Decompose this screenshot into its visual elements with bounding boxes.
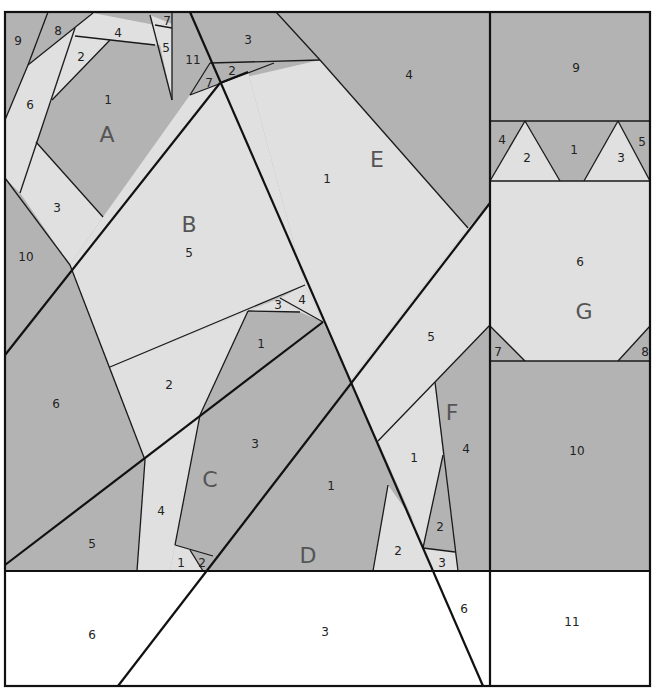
label-g10: 10 bbox=[569, 444, 584, 458]
label-b3: 3 bbox=[274, 298, 282, 312]
label-f2: 2 bbox=[436, 520, 444, 534]
label-a2: 2 bbox=[77, 50, 85, 64]
label-c1: 1 bbox=[177, 556, 185, 570]
label-a3: 3 bbox=[53, 201, 61, 215]
label-f2b: 2 bbox=[394, 544, 402, 558]
section-label-e: E bbox=[370, 147, 384, 172]
section-label-g: G bbox=[575, 299, 592, 324]
pattern-svg: 9 8 4 7 5 2 6 1 3 10 11 3 4 2 7 1 5 5 6 … bbox=[0, 0, 655, 693]
label-a9: 9 bbox=[14, 34, 22, 48]
label-a11: 11 bbox=[185, 53, 200, 67]
section-label-f: F bbox=[446, 400, 459, 425]
label-bottom-6-left: 6 bbox=[88, 628, 96, 642]
label-a8: 8 bbox=[54, 24, 62, 38]
label-f3: 3 bbox=[438, 556, 446, 570]
label-b2: 2 bbox=[165, 378, 173, 392]
label-a5: 5 bbox=[162, 41, 170, 55]
label-c2: 2 bbox=[198, 556, 206, 570]
section-label-a: A bbox=[99, 122, 114, 147]
label-b1: 1 bbox=[257, 337, 265, 351]
label-a7: 7 bbox=[163, 14, 171, 28]
label-a4: 4 bbox=[114, 26, 122, 40]
quilt-pattern-diagram: 9 8 4 7 5 2 6 1 3 10 11 3 4 2 7 1 5 5 6 … bbox=[0, 0, 655, 693]
label-e4: 4 bbox=[405, 68, 413, 82]
label-e5: 5 bbox=[427, 330, 435, 344]
piece-g11 bbox=[490, 571, 650, 686]
label-b5: 5 bbox=[185, 246, 193, 260]
section-label-b: B bbox=[181, 212, 196, 237]
label-g11: 11 bbox=[564, 615, 579, 629]
label-g2: 2 bbox=[523, 151, 531, 165]
section-label-c: C bbox=[202, 467, 217, 492]
label-g7: 7 bbox=[494, 345, 502, 359]
label-g3: 3 bbox=[617, 151, 625, 165]
label-g6: 6 bbox=[576, 255, 584, 269]
label-e3: 3 bbox=[244, 33, 252, 47]
label-g5: 5 bbox=[638, 135, 646, 149]
label-c3: 3 bbox=[251, 437, 259, 451]
label-e7: 7 bbox=[205, 76, 213, 90]
label-a1: 1 bbox=[104, 93, 112, 107]
section-label-d: D bbox=[300, 543, 317, 568]
label-g8: 8 bbox=[641, 345, 649, 359]
label-g4: 4 bbox=[498, 133, 506, 147]
label-e2: 2 bbox=[228, 64, 236, 78]
label-f4: 4 bbox=[462, 442, 470, 456]
label-c4: 4 bbox=[157, 504, 165, 518]
label-f1: 1 bbox=[410, 451, 418, 465]
label-bottom-3: 3 bbox=[321, 625, 329, 639]
piece-g6 bbox=[490, 181, 650, 361]
label-a10: 10 bbox=[18, 250, 33, 264]
label-b6: 6 bbox=[52, 397, 60, 411]
label-a6: 6 bbox=[26, 98, 34, 112]
label-e1: 1 bbox=[323, 172, 331, 186]
label-g9: 9 bbox=[572, 61, 580, 75]
label-bottom-6-right: 6 bbox=[460, 602, 468, 616]
label-c5: 5 bbox=[88, 537, 96, 551]
label-g1: 1 bbox=[570, 143, 578, 157]
label-b4: 4 bbox=[298, 293, 306, 307]
label-d1: 1 bbox=[327, 479, 335, 493]
